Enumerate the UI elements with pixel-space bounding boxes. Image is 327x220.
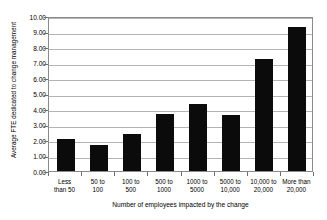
x-tick-mark bbox=[280, 172, 281, 176]
bar-slot bbox=[82, 18, 115, 171]
x-tick-mark bbox=[247, 172, 248, 176]
x-axis-title: Number of employees impacted by the chan… bbox=[48, 200, 313, 209]
x-tick-mark bbox=[81, 172, 82, 176]
bar-slot bbox=[115, 18, 148, 171]
bar[interactable] bbox=[222, 115, 240, 171]
y-tick-label: 6.00 bbox=[12, 76, 46, 83]
x-tick-mark bbox=[48, 172, 49, 176]
x-tick-mark bbox=[114, 172, 115, 176]
bar[interactable] bbox=[57, 139, 75, 171]
x-tick-label: More than 20,000 bbox=[276, 178, 317, 194]
bar[interactable] bbox=[288, 27, 306, 171]
bar[interactable] bbox=[255, 59, 273, 171]
y-tick-label: 9.00 bbox=[12, 29, 46, 36]
y-tick-label: 0.00 bbox=[12, 169, 46, 176]
bar-slot bbox=[49, 18, 82, 171]
y-tick-label: 5.00 bbox=[12, 91, 46, 98]
x-tick-mark bbox=[214, 172, 215, 176]
y-tick-label: 3.00 bbox=[12, 122, 46, 129]
x-tick-mark bbox=[181, 172, 182, 176]
y-tick-label: 8.00 bbox=[12, 45, 46, 52]
y-tick-label: 7.00 bbox=[12, 60, 46, 67]
bar-slot bbox=[148, 18, 181, 171]
bar[interactable] bbox=[156, 114, 174, 171]
y-tick-label: 10.00 bbox=[12, 14, 46, 21]
bar-slot bbox=[281, 18, 314, 171]
y-tick-label: 4.00 bbox=[12, 107, 46, 114]
x-tick-mark bbox=[313, 172, 314, 176]
bar[interactable] bbox=[189, 104, 207, 171]
x-tick-mark bbox=[147, 172, 148, 176]
plot-area bbox=[48, 17, 313, 172]
bars-layer bbox=[49, 18, 312, 171]
bar[interactable] bbox=[123, 134, 141, 171]
bar-chart-figure: Average FTE dedicated to change manageme… bbox=[0, 0, 327, 220]
y-tick-label: 1.00 bbox=[12, 153, 46, 160]
y-tick-label: 2.00 bbox=[12, 138, 46, 145]
bar[interactable] bbox=[90, 145, 108, 171]
bar-slot bbox=[182, 18, 215, 171]
bar-slot bbox=[248, 18, 281, 171]
bar-slot bbox=[215, 18, 248, 171]
